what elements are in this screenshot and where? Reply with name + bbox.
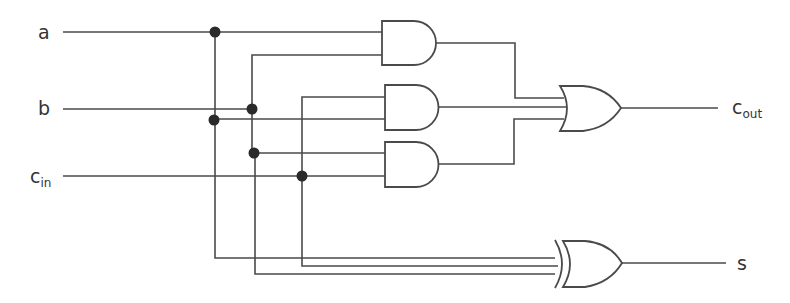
input-label-a: a — [38, 21, 50, 43]
and-gate-2 — [385, 85, 439, 130]
junction-cin — [297, 171, 308, 182]
input-label-cin: cin — [30, 165, 51, 190]
wire-cin-branch — [302, 176, 558, 266]
xor-gate — [563, 241, 622, 287]
and-gate-1 — [382, 21, 436, 65]
wire-cin-to-and2 — [302, 97, 385, 176]
wire-and3-out — [439, 119, 564, 164]
junction-b — [247, 104, 258, 115]
output-label-cout: cout — [732, 96, 762, 121]
wire-and1-out — [436, 43, 564, 98]
xor-gate-extra-arc — [555, 240, 562, 288]
wire-b-to-and1 — [252, 55, 382, 109]
junction-a — [210, 27, 221, 38]
and-gate-3 — [385, 142, 439, 187]
input-label-b: b — [38, 97, 50, 119]
junction-b-2 — [249, 148, 260, 159]
or-gate — [560, 86, 621, 131]
output-label-s: s — [737, 252, 747, 274]
wire-b-branch — [252, 109, 555, 274]
junction-a-2 — [209, 115, 220, 126]
full-adder-circuit: a b cin cout s — [0, 0, 790, 303]
